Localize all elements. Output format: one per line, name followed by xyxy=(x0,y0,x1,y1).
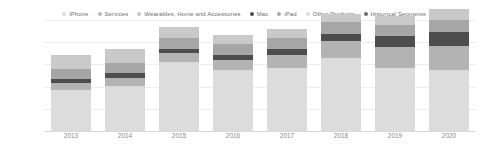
bar-segment[interactable] xyxy=(51,83,91,90)
bar-segment[interactable] xyxy=(321,58,361,131)
bar-segment[interactable] xyxy=(429,32,469,46)
bar-segment[interactable] xyxy=(51,55,91,69)
chart-container: iPhoneServicesWearables, Home and Access… xyxy=(0,0,488,148)
bar-segment[interactable] xyxy=(159,38,199,49)
legend-item[interactable]: Services xyxy=(98,11,129,17)
bar-group xyxy=(44,20,476,131)
bar-segment[interactable] xyxy=(105,78,145,86)
legend-label: iPhone xyxy=(69,11,88,17)
gridline xyxy=(44,131,476,132)
legend-swatch-icon xyxy=(250,12,254,16)
x-axis-tick-label: 2018 xyxy=(314,133,368,145)
legend-swatch-icon xyxy=(137,12,141,16)
stacked-bar[interactable] xyxy=(375,16,415,131)
bar-segment[interactable] xyxy=(375,16,415,25)
legend-label: Services xyxy=(105,11,129,17)
stacked-bar[interactable] xyxy=(267,29,307,131)
legend-swatch-icon xyxy=(62,12,66,16)
bar-segment[interactable] xyxy=(159,53,199,62)
bar-segment[interactable] xyxy=(375,25,415,36)
bar-segment[interactable] xyxy=(213,70,253,131)
bar-segment[interactable] xyxy=(105,63,145,74)
bar-segment[interactable] xyxy=(321,41,361,58)
bar-segment[interactable] xyxy=(51,90,91,131)
bar-segment[interactable] xyxy=(375,36,415,47)
bar-column[interactable] xyxy=(314,20,368,131)
bar-segment[interactable] xyxy=(267,55,307,68)
x-axis-tick-label: 2013 xyxy=(44,133,98,145)
legend-swatch-icon xyxy=(277,12,281,16)
legend-item[interactable]: Wearables, Home and Accessories xyxy=(137,11,240,17)
legend-label: iPad xyxy=(284,11,296,17)
stacked-bar[interactable] xyxy=(321,14,361,131)
bar-segment[interactable] xyxy=(267,38,307,49)
bar-segment[interactable] xyxy=(105,86,145,131)
bar-segment[interactable] xyxy=(321,34,361,42)
x-axis-tick-label: 2016 xyxy=(206,133,260,145)
bar-segment[interactable] xyxy=(375,68,415,131)
stacked-bar[interactable] xyxy=(51,55,91,131)
bar-segment[interactable] xyxy=(159,62,199,131)
x-axis-tick-label: 2015 xyxy=(152,133,206,145)
bar-segment[interactable] xyxy=(429,20,469,33)
bar-segment[interactable] xyxy=(213,44,253,54)
legend-swatch-icon xyxy=(98,12,102,16)
bar-column[interactable] xyxy=(368,20,422,131)
legend-swatch-icon xyxy=(364,12,368,16)
bar-segment[interactable] xyxy=(267,68,307,131)
bar-segment[interactable] xyxy=(213,60,253,71)
legend-swatch-icon xyxy=(306,12,310,16)
bar-segment[interactable] xyxy=(213,35,253,44)
legend-item[interactable]: iPhone xyxy=(62,11,88,17)
bar-column[interactable] xyxy=(98,20,152,131)
legend-label: Wearables, Home and Accessories xyxy=(144,11,240,17)
x-axis-tick-label: 2020 xyxy=(422,133,476,145)
bar-column[interactable] xyxy=(260,20,314,131)
stacked-bar[interactable] xyxy=(105,49,145,131)
bar-segment[interactable] xyxy=(429,70,469,131)
bar-segment[interactable] xyxy=(321,14,361,22)
bar-segment[interactable] xyxy=(321,22,361,33)
legend-item[interactable]: Mac xyxy=(250,11,269,17)
stacked-bar[interactable] xyxy=(429,9,469,131)
bar-segment[interactable] xyxy=(159,27,199,37)
x-axis-labels: 20132014201520162017201820192020 xyxy=(44,133,476,145)
y-axis-labels xyxy=(0,20,40,131)
plot-area xyxy=(44,20,476,131)
bar-segment[interactable] xyxy=(105,49,145,62)
legend-label: Mac xyxy=(257,11,269,17)
bar-segment[interactable] xyxy=(375,47,415,68)
bar-segment[interactable] xyxy=(51,69,91,79)
bar-column[interactable] xyxy=(152,20,206,131)
legend-item[interactable]: iPad xyxy=(277,11,296,17)
bar-segment[interactable] xyxy=(267,29,307,38)
bar-segment[interactable] xyxy=(429,9,469,20)
bar-segment[interactable] xyxy=(429,46,469,70)
stacked-bar[interactable] xyxy=(159,27,199,131)
x-axis-tick-label: 2017 xyxy=(260,133,314,145)
stacked-bar[interactable] xyxy=(213,35,253,131)
bar-column[interactable] xyxy=(422,20,476,131)
bar-column[interactable] xyxy=(206,20,260,131)
bar-column[interactable] xyxy=(44,20,98,131)
x-axis-tick-label: 2014 xyxy=(98,133,152,145)
x-axis-tick-label: 2019 xyxy=(368,133,422,145)
